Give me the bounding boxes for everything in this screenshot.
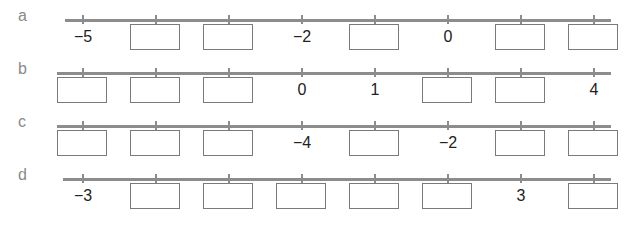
tick-value: −3 [58,187,108,205]
tick-mark [228,15,230,24]
tick-value: 3 [496,187,546,205]
tick-mark [155,68,157,77]
answer-box[interactable] [422,183,472,209]
answer-box[interactable] [568,130,618,156]
tick-value: −4 [277,134,327,152]
number-line-b [57,72,611,75]
tick-mark [447,15,449,24]
tick-mark [228,174,230,183]
tick-mark [593,121,595,130]
answer-box[interactable] [349,183,399,209]
tick-value: −2 [423,134,473,152]
tick-mark [447,68,449,77]
tick-mark [593,174,595,183]
answer-box[interactable] [130,130,180,156]
tick-value: −5 [58,28,108,46]
answer-box[interactable] [568,183,618,209]
tick-mark [593,15,595,24]
tick-mark [155,121,157,130]
answer-box[interactable] [203,77,253,103]
tick-mark [82,174,84,183]
answer-box[interactable] [349,24,399,50]
tick-mark [520,174,522,183]
answer-box[interactable] [568,24,618,50]
tick-value: 4 [569,81,619,99]
tick-mark [520,15,522,24]
answer-box[interactable] [349,130,399,156]
tick-mark [155,174,157,183]
tick-value: 0 [277,81,327,99]
tick-mark [374,68,376,77]
tick-mark [82,121,84,130]
tick-value: 0 [423,28,473,46]
tick-mark [520,68,522,77]
row-label-b: b [18,60,27,78]
answer-box[interactable] [422,77,472,103]
row-label-d: d [18,166,27,184]
answer-box[interactable] [57,130,107,156]
tick-mark [374,121,376,130]
tick-mark [374,15,376,24]
tick-value: 1 [350,81,400,99]
answer-box[interactable] [203,183,253,209]
tick-mark [82,15,84,24]
answer-box[interactable] [130,77,180,103]
number-line-a [65,19,611,22]
answer-box[interactable] [495,77,545,103]
tick-mark [228,68,230,77]
tick-mark [447,121,449,130]
tick-mark [228,121,230,130]
tick-mark [593,68,595,77]
tick-mark [447,174,449,183]
tick-mark [520,121,522,130]
answer-box[interactable] [57,77,107,103]
answer-box[interactable] [203,24,253,50]
answer-box[interactable] [130,183,180,209]
tick-mark [301,121,303,130]
tick-mark [301,174,303,183]
answer-box[interactable] [495,24,545,50]
tick-mark [82,68,84,77]
answer-box[interactable] [203,130,253,156]
tick-mark [301,15,303,24]
row-label-c: c [18,113,26,131]
tick-mark [155,15,157,24]
row-label-a: a [18,7,27,25]
answer-box[interactable] [276,183,326,209]
answer-box[interactable] [130,24,180,50]
number-line-d [63,178,611,181]
tick-value: −2 [277,28,327,46]
tick-mark [301,68,303,77]
number-line-c [57,125,611,128]
tick-mark [374,174,376,183]
answer-box[interactable] [495,130,545,156]
